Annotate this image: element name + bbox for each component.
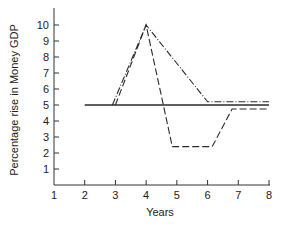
y-tick-label: 10 [37,19,49,31]
y-tick-label: 7 [43,67,49,79]
y-tick-label: 1 [43,163,49,175]
y-tick-label: 6 [43,83,49,95]
series-dashed-line [115,25,269,147]
x-axis-title: Years [146,206,174,218]
y-axis-title: Percentage rise in Money GDP [8,24,20,176]
y-tick-label: 3 [43,131,49,143]
y-tick-label: 5 [43,99,49,111]
x-tick-label: 7 [235,189,241,201]
y-tick-label: 9 [43,35,49,47]
x-tick-label: 1 [51,189,57,201]
line-chart: 12345678910 12345678 Years Percentage ri… [0,0,281,230]
y-axis-ticks: 12345678910 [37,19,59,175]
y-tick-label: 8 [43,51,49,63]
x-tick-label: 6 [205,189,211,201]
y-tick-label: 2 [43,147,49,159]
x-tick-label: 2 [82,189,88,201]
x-tick-label: 3 [112,189,118,201]
y-tick-label: 4 [43,115,49,127]
series-dash-dot-line [112,25,269,105]
axes [54,8,270,185]
x-tick-label: 5 [174,189,180,201]
x-tick-label: 8 [266,189,272,201]
x-tick-label: 4 [143,189,149,201]
data-series [85,25,269,147]
x-axis-ticks: 12345678 [51,180,272,201]
